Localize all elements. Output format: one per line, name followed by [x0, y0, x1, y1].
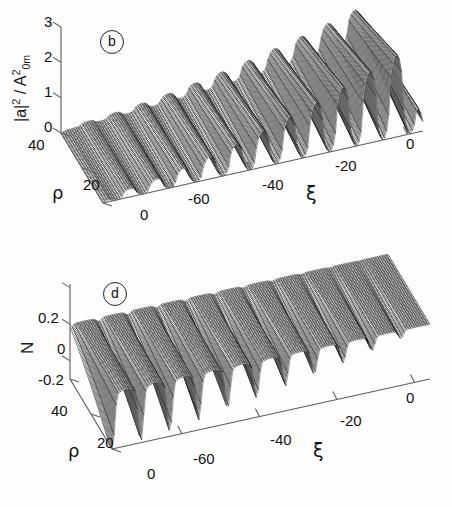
rhotick-b-0: 0 [140, 206, 148, 223]
rhotick-d-20: 20 [97, 434, 114, 451]
xitick-b-m60: -60 [188, 190, 210, 207]
zaxis-label-b-text: |a|2 / A20m [12, 55, 29, 122]
xitick-d-m20: -20 [340, 412, 362, 429]
panel-b: b 3 2 1 0 |a|2 / A20m 40 20 0 ρ -60 -40 … [0, 0, 452, 253]
xitick-d-m40: -40 [270, 431, 292, 448]
rhotick-d-0: 0 [147, 465, 155, 482]
xitick-b-m40: -40 [262, 176, 284, 193]
rhotick-b-20: 20 [83, 176, 100, 193]
xiaxis-label-b: ξ [306, 182, 317, 204]
xitick-b-m20: -20 [335, 157, 357, 174]
rhoaxis-label-d: ρ [68, 440, 79, 461]
ztick-d-02: 0.2 [38, 309, 59, 326]
zaxis-label-b: |a|2 / A20m [10, 55, 33, 122]
surface-plot-b [0, 0, 452, 253]
panel-d: d 0.2 0 -0.2 N 40 20 0 ρ -60 -40 -20 0 ξ [0, 254, 452, 507]
ztick-b-3: 3 [44, 13, 52, 30]
panel-badge-d: d [103, 282, 127, 306]
zaxis-label-d: N [18, 342, 38, 354]
panel-badge-b: b [100, 30, 124, 54]
xitick-b-0: 0 [406, 135, 414, 152]
ztick-b-0: 0 [44, 118, 52, 135]
rhotick-b-40: 40 [28, 136, 45, 153]
figure-container: b 3 2 1 0 |a|2 / A20m 40 20 0 ρ -60 -40 … [0, 0, 452, 507]
rhoaxis-label-b: ρ [52, 182, 63, 203]
xitick-d-0: 0 [406, 389, 414, 406]
rhotick-d-40: 40 [51, 402, 68, 419]
ztick-d-m02: -0.2 [38, 371, 64, 388]
ztick-b-1: 1 [44, 83, 52, 100]
ztick-b-2: 2 [44, 48, 52, 65]
xiaxis-label-d: ξ [313, 439, 324, 461]
xitick-d-m60: -60 [193, 450, 215, 467]
ztick-d-0: 0 [57, 340, 65, 357]
surface-plot-d [0, 254, 452, 507]
